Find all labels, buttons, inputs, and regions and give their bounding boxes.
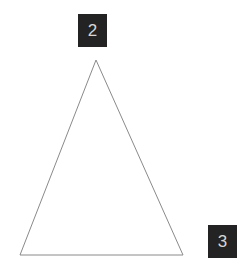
vertex-label-badge-3-text: 3 [218,233,227,250]
triangle-outline [20,60,183,255]
diagram-canvas: 2 3 [0,0,241,274]
triangle-shape-layer [0,0,241,274]
vertex-label-badge-2[interactable]: 2 [78,14,107,47]
vertex-label-badge-3[interactable]: 3 [208,225,237,258]
vertex-label-badge-2-text: 2 [88,22,97,39]
